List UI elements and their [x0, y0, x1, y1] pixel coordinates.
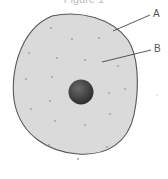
label-b: B: [154, 43, 161, 54]
label-a: A: [153, 8, 160, 19]
nucleus: [69, 80, 94, 105]
cell-diagram: [0, 0, 168, 179]
leader-line-a: [113, 15, 150, 31]
